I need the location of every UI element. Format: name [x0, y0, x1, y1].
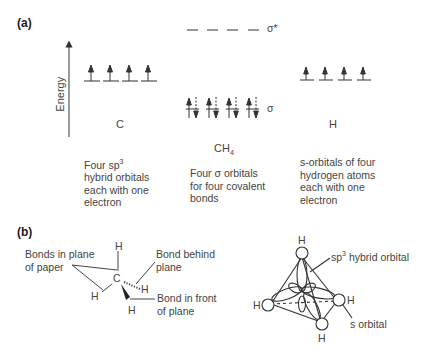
hydrogen-caption: s-orbitals of four hydrogen atoms each w…: [300, 156, 375, 206]
orbital-atom-h-right: H: [347, 294, 355, 307]
front-annotation: Bond in front of plane: [157, 292, 217, 317]
carbon-title: C: [110, 118, 130, 131]
atom-h-behind: H: [141, 283, 149, 296]
antibonding-label: σ*: [267, 22, 278, 35]
sp3-orbital-label: sp3 hybrid orbital: [331, 248, 409, 263]
orbital-atom-h-bottom: H: [318, 332, 326, 345]
methane-bonding-levels: [186, 97, 259, 118]
carbon-orbital-levels: [84, 65, 157, 81]
methane-title: CH4: [214, 142, 234, 160]
atom-c: C: [113, 272, 121, 285]
hydrogen-orbital-levels: [300, 67, 371, 80]
orbital-atom-h-left: H: [253, 299, 261, 312]
methane-caption: Four σ orbitals for four covalent bonds: [190, 167, 265, 205]
s-orbital-label: s orbital: [350, 318, 387, 331]
carbon-caption: Four sp3 hybrid orbitals each with one e…: [84, 156, 149, 209]
bonding-label: σ: [267, 102, 273, 115]
atom-h-front: H: [128, 304, 136, 317]
hydrogen-title: H: [323, 118, 343, 131]
in-plane-annotation: Bonds in plane of paper: [25, 248, 94, 273]
atom-h-top: H: [115, 240, 123, 253]
atom-h-left: H: [91, 290, 99, 303]
energy-axis-label: Energy: [54, 77, 67, 112]
panel-b-label: (b): [17, 225, 32, 239]
orbital-atom-h-top: H: [298, 234, 306, 247]
behind-annotation: Bond behind plane: [156, 248, 215, 273]
